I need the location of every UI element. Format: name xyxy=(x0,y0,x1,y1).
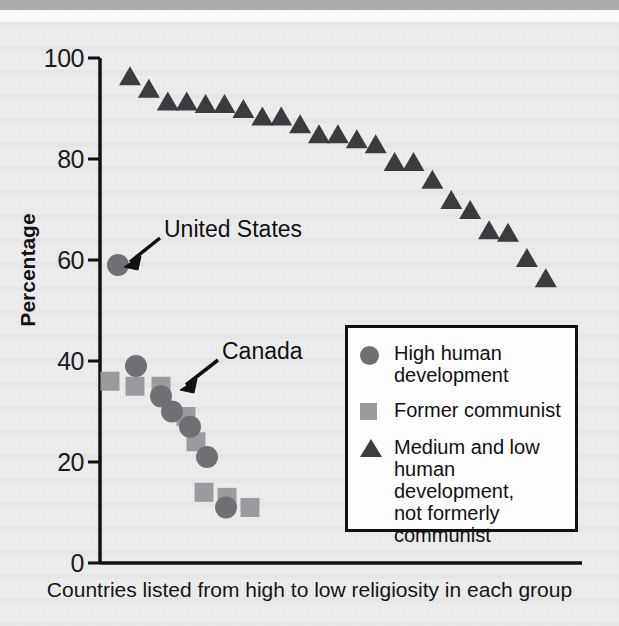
data-point-triangle xyxy=(251,107,273,126)
annotation-united-states: United States xyxy=(164,216,302,243)
x-axis-label: Countries listed from high to low religi… xyxy=(0,578,619,602)
y-tick-label-0: 0 xyxy=(28,549,84,578)
data-point-triangle xyxy=(421,170,443,189)
data-point-triangle xyxy=(459,200,481,219)
y-tick-label-100: 100 xyxy=(28,44,84,73)
data-point-circle xyxy=(125,355,147,377)
square-marker-icon xyxy=(360,399,394,420)
data-point-triangle xyxy=(195,94,217,113)
data-point-triangle xyxy=(497,223,519,242)
data-point-circle xyxy=(107,254,129,276)
legend-label-line1: High human xyxy=(394,342,502,364)
circle-marker-icon xyxy=(360,342,394,365)
data-point-triangle xyxy=(478,220,500,239)
data-point-triangle xyxy=(403,152,425,171)
legend-item-high-human-development: High human development xyxy=(360,342,565,386)
legend-label-line3: not formerly xyxy=(394,502,500,524)
legend-label-line1: Medium and low xyxy=(394,436,540,458)
data-point-triangle xyxy=(327,124,349,143)
data-point-triangle xyxy=(232,99,254,118)
data-point-triangle xyxy=(440,190,462,209)
data-point-triangle xyxy=(270,107,292,126)
data-point-triangle xyxy=(516,248,538,267)
y-axis-label: Percentage xyxy=(16,200,40,340)
series-former-communist xyxy=(101,372,260,517)
y-axis-ticks xyxy=(88,58,100,563)
legend-label-line4: communist xyxy=(394,524,491,546)
data-point-circle xyxy=(196,446,218,468)
y-tick-label-20: 20 xyxy=(28,448,84,477)
data-point-circle xyxy=(179,416,201,438)
data-point-triangle xyxy=(138,79,160,98)
chart-legend: High human development Former communist … xyxy=(345,325,578,532)
legend-label-line2: human development, xyxy=(394,458,514,502)
arrow-united-states xyxy=(124,238,160,270)
data-point-circle xyxy=(161,401,183,423)
data-point-square xyxy=(101,372,120,391)
data-point-triangle xyxy=(535,268,557,287)
data-point-square xyxy=(241,498,260,517)
y-tick-label-80: 80 xyxy=(28,145,84,174)
data-point-triangle xyxy=(214,94,236,113)
triangle-marker-icon xyxy=(360,436,394,457)
legend-label-line2: development xyxy=(394,364,509,386)
data-point-triangle xyxy=(308,124,330,143)
data-point-triangle xyxy=(157,91,179,110)
data-point-triangle xyxy=(119,66,141,85)
data-point-triangle xyxy=(176,91,198,110)
arrow-canada xyxy=(180,360,218,393)
data-point-circle xyxy=(215,496,237,518)
y-tick-label-40: 40 xyxy=(28,347,84,376)
data-point-square xyxy=(195,483,214,502)
data-point-triangle xyxy=(384,152,406,171)
legend-item-medium-low-human-development: Medium and low human development, not fo… xyxy=(360,436,565,546)
data-point-square xyxy=(126,377,145,396)
legend-label-former-communist: Former communist xyxy=(394,399,561,421)
annotation-canada: Canada xyxy=(222,338,303,365)
data-point-triangle xyxy=(346,129,368,148)
data-point-triangle xyxy=(289,114,311,133)
data-point-triangle xyxy=(365,134,387,153)
legend-item-former-communist: Former communist xyxy=(360,399,565,421)
series-medium-low-human-development xyxy=(119,66,557,287)
